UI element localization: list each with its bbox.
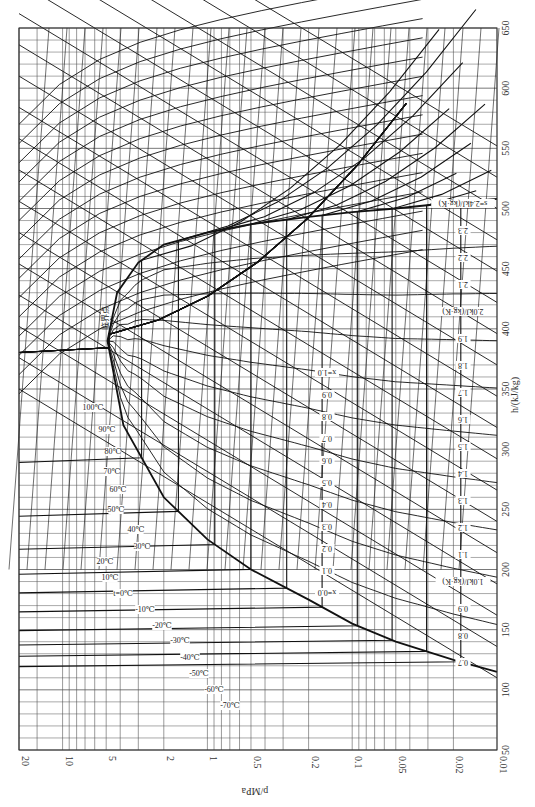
quality-line	[108, 320, 498, 341]
p-tick-label: 0.5	[252, 756, 263, 769]
svg-text:0.8: 0.8	[322, 412, 332, 421]
h-tick-label: 400	[500, 321, 511, 336]
curve-label: 2.1	[455, 280, 470, 289]
h-tick-label: 100	[500, 682, 511, 697]
p-tick-label: 20	[20, 756, 31, 766]
svg-text:-40℃: -40℃	[180, 653, 200, 662]
curve-label: s=2.4kJ/(kg·K)	[431, 199, 495, 208]
svg-text:2.2: 2.2	[458, 253, 468, 262]
svg-text:0.7: 0.7	[458, 658, 468, 667]
svg-text:0.7: 0.7	[322, 434, 332, 443]
curve-label: 1.6	[455, 415, 470, 424]
h-axis-label: h/(kJ/kg)	[509, 377, 521, 413]
isentrope	[19, 0, 497, 271]
curve-label: t=0℃	[113, 589, 133, 598]
svg-text:50℃: 50℃	[108, 505, 125, 514]
p-tick-label: 0.05	[397, 756, 408, 774]
curve-label: 1.0kJ/(kg·K)	[436, 577, 491, 586]
svg-text:x=0.0: x=0.0	[318, 588, 337, 597]
svg-text:1.6: 1.6	[458, 415, 468, 424]
curve-label: -60℃	[204, 685, 224, 694]
p-tick-label: 2	[165, 756, 176, 761]
ph-diagram: -70℃-60℃-50℃-40℃-30℃-20℃-10℃t=0℃10℃20℃30…	[0, 0, 535, 807]
svg-text:s=2.4kJ/(kg·K): s=2.4kJ/(kg·K)	[438, 199, 487, 208]
svg-text:临界点: 临界点	[100, 306, 110, 330]
h-tick-label: 600	[500, 81, 511, 96]
svg-text:1.9: 1.9	[458, 334, 468, 343]
isotherm-superheated	[19, 250, 423, 394]
isotherm	[19, 29, 439, 462]
svg-text:1.2: 1.2	[458, 523, 468, 532]
isochore	[387, 28, 427, 570]
svg-text:-30℃: -30℃	[170, 636, 190, 645]
isochore	[135, 28, 175, 570]
isochore	[27, 28, 67, 570]
svg-text:-50℃: -50℃	[189, 669, 209, 678]
isotherm	[19, 109, 449, 575]
isochore	[369, 28, 409, 570]
svg-text:1.8: 1.8	[458, 361, 468, 370]
curve-label: 临界点	[100, 306, 110, 330]
isotherm	[19, 63, 463, 550]
curve-label: 80℃	[105, 447, 122, 456]
svg-text:1.5: 1.5	[458, 442, 468, 451]
svg-text:-20℃: -20℃	[152, 621, 172, 630]
svg-text:10℃: 10℃	[102, 573, 119, 582]
svg-text:-70℃: -70℃	[220, 701, 240, 710]
svg-text:1.3: 1.3	[458, 496, 468, 505]
curve-label: x=0.0	[315, 588, 339, 597]
isochore	[45, 28, 85, 570]
p-tick-label: 0.1	[353, 756, 364, 769]
h-tick-label: 150	[500, 622, 511, 637]
curve-label: 1.5	[455, 442, 470, 451]
h-tick-label: 650	[500, 21, 511, 36]
curve-label: 2.2	[455, 253, 470, 262]
svg-text:0.3: 0.3	[322, 522, 332, 531]
curve-label: 1.7	[455, 388, 470, 397]
curve-label: 10℃	[102, 573, 119, 582]
p-tick-label: 0.2	[310, 756, 321, 769]
svg-text:x=1.0: x=1.0	[318, 368, 337, 377]
svg-text:0.4: 0.4	[322, 500, 332, 509]
isochore	[333, 28, 373, 570]
curve-label: 70℃	[104, 467, 121, 476]
isentrope	[19, 139, 497, 428]
h-tick-label: 250	[500, 502, 511, 517]
curve-label: 0.7	[455, 658, 470, 667]
h-tick-label: 550	[500, 141, 511, 156]
curve-label: 0.1	[319, 566, 334, 575]
isochore	[297, 28, 337, 570]
h-tick-label: 50	[500, 745, 511, 755]
curve-label: 0.7	[319, 434, 334, 443]
curve-label: 0.6	[319, 456, 334, 465]
h-tick-label: 300	[500, 442, 511, 457]
svg-text:60℃: 60℃	[110, 485, 127, 494]
curve-label: 0.8	[319, 412, 334, 421]
curve-label: 50℃	[108, 505, 125, 514]
p-tick-label: 1	[208, 756, 219, 761]
curve-label: 0.8	[455, 631, 470, 640]
svg-text:40℃: 40℃	[128, 525, 145, 534]
curve-label: 90℃	[99, 425, 116, 434]
p-axis-label: p/MPa	[241, 786, 268, 797]
curve-label: 0.3	[319, 522, 334, 531]
svg-text:1.4: 1.4	[458, 469, 468, 478]
svg-text:0.5: 0.5	[322, 478, 332, 487]
curve-label: 2.0kJ/(kg·K)	[436, 307, 491, 316]
curve-label: -40℃	[180, 653, 200, 662]
isochore	[225, 28, 265, 570]
svg-text:20℃: 20℃	[97, 557, 114, 566]
curve-label: 0.9	[455, 604, 470, 613]
curve-label: 1.8	[455, 361, 470, 370]
isentrope	[19, 14, 497, 303]
svg-text:2.1: 2.1	[458, 280, 468, 289]
curve-label: 40℃	[128, 525, 145, 534]
svg-text:1.7: 1.7	[458, 388, 468, 397]
svg-text:100℃: 100℃	[83, 403, 104, 412]
svg-text:0.6: 0.6	[322, 456, 332, 465]
curve-label: -50℃	[189, 669, 209, 678]
property-curves	[9, 0, 499, 678]
curve-label: 0.4	[319, 500, 334, 509]
svg-text:0.8: 0.8	[458, 631, 468, 640]
curve-label: -10℃	[135, 605, 155, 614]
